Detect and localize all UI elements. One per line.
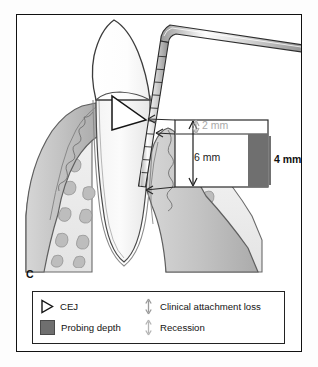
legend-label-cej: CEJ [60,301,78,312]
legend-label-probing-depth: Probing depth [61,322,121,333]
double-arrow-dark-icon [143,298,154,315]
probing-depth-bar [248,134,268,187]
probing-depth-value-label: 4 mm [274,153,301,165]
cej-triangle-icon [40,299,54,314]
clinical-attachment-loss-value-label: 6 mm [194,151,220,163]
probing-depth-swatch-icon [40,320,55,335]
recession-value-label: 2 mm [202,119,228,131]
legend-item-cej: CEJ [40,297,78,315]
tooth-crown [92,20,150,100]
legend-label-recession: Recession [160,322,205,333]
legend-item-recession: Recession [143,318,205,336]
double-arrow-light-icon [143,319,154,336]
legend-label-cal: Clinical attachment loss [160,301,261,312]
legend-box: CEJ Probing depth Clinical attachment lo… [32,291,285,344]
figure-root: 2 mm 6 mm 4 mm C CEJ Probing depth Clini… [0,0,318,367]
legend-item-probing-depth: Probing depth [40,318,121,336]
panel-label: C [26,268,34,280]
legend-item-cal: Clinical attachment loss [143,297,261,315]
